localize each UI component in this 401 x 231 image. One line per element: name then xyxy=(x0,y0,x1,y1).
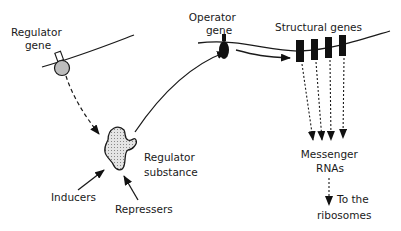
transcription-arrow xyxy=(330,60,331,140)
operator-gene-label: Operator gene xyxy=(189,11,239,36)
regulator-substance-label: Regulator substance xyxy=(144,151,198,178)
ribosomes-label: To the ribosomes xyxy=(317,193,372,221)
operator-to-structural-arrow xyxy=(236,50,290,58)
substance-to-operator-arrow xyxy=(135,52,226,132)
operon-diagram: Regulator gene Operator gene Structural … xyxy=(0,0,401,231)
structural-genes-label: Structural genes xyxy=(275,21,362,33)
structural-gene xyxy=(339,35,346,56)
messenger-rnas-label: Messenger RNAs xyxy=(301,148,361,174)
structural-gene xyxy=(311,39,318,60)
repressers-arrow xyxy=(124,176,138,200)
transcription-arrow xyxy=(343,58,344,138)
regulator-substance-shape xyxy=(105,127,137,170)
regulator-gene-label: Regulator gene xyxy=(11,26,65,51)
inducers-label: Inducers xyxy=(51,191,96,203)
structural-gene xyxy=(325,37,332,58)
inducers-arrow xyxy=(78,170,104,190)
operator-gene-marker xyxy=(219,34,229,59)
transcription-arrow xyxy=(302,64,313,140)
repressers-label: Repressers xyxy=(115,203,173,215)
regulator-gene-marker xyxy=(55,51,70,75)
structural-gene xyxy=(296,40,304,62)
regulator-dna-strand xyxy=(42,35,134,67)
transcription-arrow xyxy=(316,62,322,140)
synthesis-arrow xyxy=(66,76,99,134)
